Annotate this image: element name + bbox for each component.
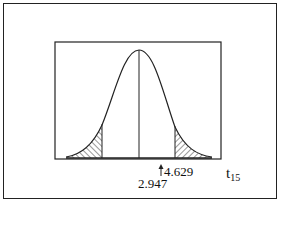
observed-value-label: 2.947 (138, 177, 167, 190)
critical-value-label: 4.629 (164, 165, 193, 178)
degrees-of-freedom: 15 (230, 172, 240, 183)
axis-label: t15 (226, 167, 240, 184)
plot-box (55, 42, 221, 159)
up-arrow-icon (159, 164, 164, 176)
left-tail-region (66, 125, 102, 158)
right-tail-region (175, 127, 212, 158)
